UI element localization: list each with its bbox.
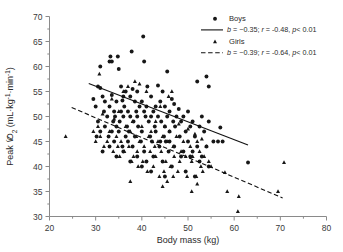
y-tick-label: 35	[33, 187, 43, 197]
data-point-triangle	[200, 137, 204, 141]
data-point-triangle	[119, 139, 123, 143]
data-point-circle	[154, 130, 158, 134]
chart-canvas: 20304050607080 303540455055606570 Boysb …	[0, 0, 343, 252]
data-point-triangle	[145, 169, 149, 173]
data-point-circle	[142, 60, 146, 64]
data-point-circle	[126, 110, 130, 114]
data-point-circle	[202, 130, 206, 134]
data-point-triangle	[96, 124, 100, 128]
data-point-triangle	[142, 144, 146, 148]
data-point-circle	[131, 145, 135, 149]
data-point-circle	[221, 140, 225, 144]
y-axis-title: Peak V̇O2 (mL·kg-1·min-1)	[4, 67, 18, 165]
data-point-triangle	[154, 119, 158, 123]
data-point-circle	[211, 140, 215, 144]
data-point-triangle	[114, 134, 118, 138]
data-point-circle	[191, 150, 195, 154]
data-point-triangle	[199, 164, 203, 168]
data-point-triangle	[181, 139, 185, 143]
data-point-triangle	[64, 134, 68, 138]
data-point-triangle	[98, 134, 102, 138]
data-point-circle	[173, 125, 177, 129]
data-point-triangle	[140, 124, 144, 128]
data-point-circle	[136, 125, 140, 129]
y-tick-label: 60	[33, 62, 43, 72]
data-point-circle	[140, 165, 144, 169]
x-tick-label: 70	[276, 223, 286, 233]
data-point-circle	[128, 95, 132, 99]
data-point-circle	[108, 145, 112, 149]
data-point-circle	[213, 17, 217, 21]
data-point-triangle	[225, 189, 229, 193]
data-point-circle	[165, 115, 169, 119]
data-point-triangle	[128, 179, 132, 183]
data-point-circle	[195, 145, 199, 149]
data-point-circle	[179, 155, 183, 159]
data-point-circle	[184, 170, 188, 174]
data-point-circle	[135, 90, 139, 94]
data-point-triangle	[158, 104, 162, 108]
data-point-circle	[188, 125, 192, 129]
data-point-circle	[207, 85, 211, 89]
data-point-circle	[117, 130, 121, 134]
legend-label-girls: Girls	[229, 37, 245, 46]
data-points-girls	[64, 72, 286, 213]
data-point-triangle	[193, 132, 197, 136]
data-point-triangle	[276, 189, 280, 193]
data-point-triangle	[188, 144, 192, 148]
x-tick-label: 30	[91, 223, 101, 233]
data-point-circle	[145, 85, 149, 89]
data-point-triangle	[161, 184, 165, 188]
scatter-plot-figure: 20304050607080 303540455055606570 Boysb …	[0, 0, 343, 252]
data-point-circle	[95, 135, 99, 139]
data-point-triangle	[236, 209, 240, 213]
data-point-triangle	[94, 139, 98, 143]
regression-line-boys	[89, 84, 248, 146]
data-point-triangle	[195, 139, 199, 143]
data-point-circle	[138, 105, 142, 109]
data-point-circle	[110, 93, 114, 97]
data-point-triangle	[138, 82, 142, 86]
data-point-triangle	[213, 39, 217, 43]
data-point-circle	[126, 140, 130, 144]
data-point-triangle	[165, 179, 169, 183]
data-point-circle	[135, 115, 139, 119]
x-tick-label: 60	[229, 223, 239, 233]
data-point-circle	[114, 100, 118, 104]
data-point-circle	[163, 175, 167, 179]
data-point-circle	[96, 120, 100, 124]
data-point-circle	[135, 155, 139, 159]
data-point-circle	[161, 90, 165, 94]
x-tick-label: 50	[183, 223, 193, 233]
y-tick-label: 65	[33, 37, 43, 47]
data-point-circle	[156, 84, 160, 88]
data-point-circle	[200, 115, 204, 119]
x-tick-labels: 20304050607080	[45, 223, 332, 233]
data-point-triangle	[178, 159, 182, 163]
data-point-circle	[140, 130, 144, 134]
data-point-circle	[181, 115, 185, 119]
data-point-triangle	[149, 129, 153, 133]
data-point-circle	[134, 110, 138, 114]
data-point-circle	[103, 100, 107, 104]
data-point-triangle	[97, 72, 101, 76]
data-point-triangle	[198, 149, 202, 153]
data-point-circle	[163, 105, 167, 109]
x-tick-label: 80	[322, 223, 332, 233]
data-point-circle	[149, 170, 153, 174]
data-point-triangle	[105, 139, 109, 143]
data-point-circle	[158, 100, 162, 104]
data-point-triangle	[159, 149, 163, 153]
legend-equation: b = −0.39; r = -0.64, p< 0.01	[227, 48, 317, 57]
data-point-triangle	[127, 144, 131, 148]
data-point-circle	[120, 145, 124, 149]
legend-label-boys: Boys	[229, 14, 246, 23]
y-tick-label: 70	[33, 12, 43, 22]
data-point-circle	[94, 105, 98, 109]
data-point-circle	[168, 110, 172, 114]
data-point-triangle	[167, 94, 171, 98]
data-point-circle	[216, 140, 220, 144]
data-point-circle	[119, 85, 123, 89]
data-point-circle	[118, 120, 122, 124]
data-point-triangle	[116, 144, 120, 148]
